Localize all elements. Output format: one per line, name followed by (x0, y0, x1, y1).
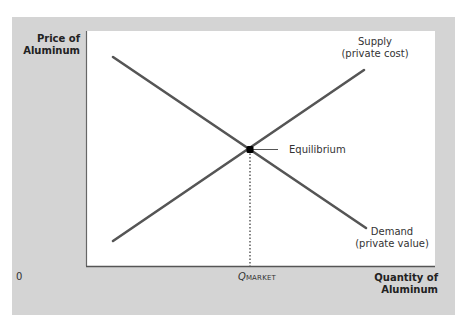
supply-label-line2: (private cost) (340, 48, 410, 60)
x-axis-label-line2: Aluminum (360, 284, 438, 296)
origin-label: 0 (16, 271, 22, 283)
equilibrium-dot (247, 146, 254, 153)
x-axis-label-line1: Quantity of (360, 272, 438, 284)
supply-label-line1: Supply (340, 36, 410, 48)
equilibrium-label: Equilibrium (289, 144, 346, 156)
y-axis-label-line2: Aluminum (20, 45, 80, 57)
supply-label: Supply (private cost) (340, 36, 410, 60)
demand-label: Demand (private value) (352, 226, 432, 250)
demand-label-line1: Demand (352, 226, 432, 238)
y-axis-label: Price of Aluminum (20, 33, 80, 57)
demand-curve (113, 57, 366, 228)
demand-label-line2: (private value) (352, 238, 432, 250)
x-axis-label: Quantity of Aluminum (360, 272, 438, 296)
q-market-tick-label: QMARKET (238, 271, 276, 284)
q-symbol: Q (238, 271, 246, 282)
y-axis-label-line1: Price of (20, 33, 80, 45)
q-subscript: MARKET (246, 274, 276, 282)
